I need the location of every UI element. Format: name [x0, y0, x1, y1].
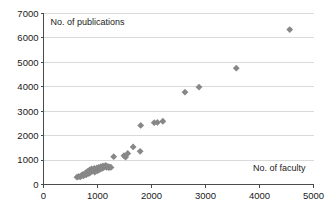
data-point-marker — [137, 148, 144, 155]
data-point-marker — [130, 143, 137, 150]
y-axis-tick-label: 4000 — [17, 81, 38, 92]
data-point-marker — [286, 26, 293, 33]
y-axis-tick-label: 3000 — [17, 106, 38, 117]
y-axis-tick-label: 2000 — [17, 130, 38, 141]
x-axis-tick-label: 3000 — [195, 190, 216, 201]
x-axis-tick-label: 2000 — [141, 190, 162, 201]
y-axis-tick-label: 7000 — [17, 8, 38, 19]
x-axis-tick-label: 5000 — [303, 190, 324, 201]
data-point-marker — [137, 122, 144, 129]
y-axis-tick-label: 1000 — [17, 154, 38, 165]
x-axis-title: No. of faculty — [253, 163, 306, 173]
x-axis-tick-label: 4000 — [249, 190, 270, 201]
data-point-marker — [196, 84, 203, 91]
data-point-marker — [182, 89, 189, 96]
scatter-chart: 0100020003000400050006000700001000200030… — [0, 0, 332, 212]
data-point-marker — [233, 65, 240, 72]
y-axis-title: No. of publications — [51, 17, 126, 27]
chart-plot-area: 0100020003000400050006000700001000200030… — [0, 0, 332, 212]
x-axis-tick-label: 0 — [41, 190, 46, 201]
y-axis-tick-label: 6000 — [17, 32, 38, 43]
y-axis-tick-label: 0 — [33, 179, 38, 190]
x-axis-tick-label: 1000 — [87, 190, 108, 201]
data-point-marker — [110, 153, 117, 160]
y-axis-tick-label: 5000 — [17, 57, 38, 68]
data-point-marker — [159, 118, 166, 125]
